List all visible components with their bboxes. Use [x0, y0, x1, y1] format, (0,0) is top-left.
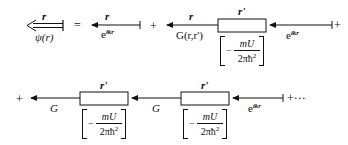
left-bracket: [82, 109, 87, 139]
left-bracket: [183, 109, 188, 139]
right-bracket: [259, 36, 264, 66]
vertex-factor-row2-right: − mU 2πħ2: [183, 109, 227, 139]
exp-exponent: ikr: [253, 102, 261, 110]
term2-propagator-top: r: [189, 11, 193, 22]
numerator: mU: [197, 111, 223, 122]
right-bracket: [222, 109, 227, 139]
term1-bottom-label: eikr: [101, 29, 114, 40]
plane-wave-arrow: [92, 21, 140, 29]
term2-incoming-label: eikr: [286, 30, 299, 41]
term2-vertex-top: r': [238, 6, 245, 17]
plus-sign-2: +: [334, 19, 341, 31]
numerator: mU: [234, 38, 260, 49]
vertex-box-row2-right: [181, 92, 229, 105]
vertex-box-row2-left: [80, 92, 128, 105]
plus-sign-row2: +: [16, 93, 23, 105]
vertex-box-row1: [218, 19, 266, 32]
numerator: mU: [96, 111, 122, 122]
minus-sign: −: [88, 118, 94, 129]
exp-exponent: ikr: [106, 28, 114, 36]
propagator2-label: G: [152, 103, 160, 114]
term2-propagator-bottom: G(r,r'): [176, 30, 203, 41]
denominator: 2πħ2: [195, 126, 225, 137]
denominator: 2πħ2: [94, 126, 124, 137]
minus-sign: −: [226, 45, 232, 56]
fraction-bar: [197, 123, 223, 124]
left-bracket: [220, 36, 225, 66]
right-bracket: [121, 109, 126, 139]
trailing-ellipsis: +···: [287, 92, 306, 104]
row2-incoming-label: eikr: [248, 103, 261, 114]
plus-sign-1: +: [150, 20, 157, 32]
vertex1-top: r': [100, 80, 107, 91]
denominator: 2πħ2: [232, 53, 262, 64]
minus-sign: −: [189, 118, 195, 129]
exp-exponent: ikr: [291, 29, 299, 37]
propagator1-label: G: [50, 103, 58, 114]
lhs-top-label: r: [42, 11, 46, 22]
vertex-factor-row2-left: − mU 2πħ2: [82, 109, 126, 139]
equals-sign: =: [74, 19, 81, 31]
fraction-bar: [96, 123, 122, 124]
incoming-wave-arrow-row1: [270, 21, 332, 29]
fraction-bar: [234, 50, 260, 51]
lhs-bottom-label: ψ(r): [35, 32, 53, 43]
incoming-wave-arrow-row2: [233, 94, 283, 102]
vertex-factor-row1: − mU 2πħ2: [220, 36, 264, 66]
psi-symbol: ψ(r): [35, 31, 53, 43]
diagram-lines: [0, 0, 348, 145]
vertex2-top: r': [201, 80, 208, 91]
term1-top-label: r: [105, 11, 109, 22]
